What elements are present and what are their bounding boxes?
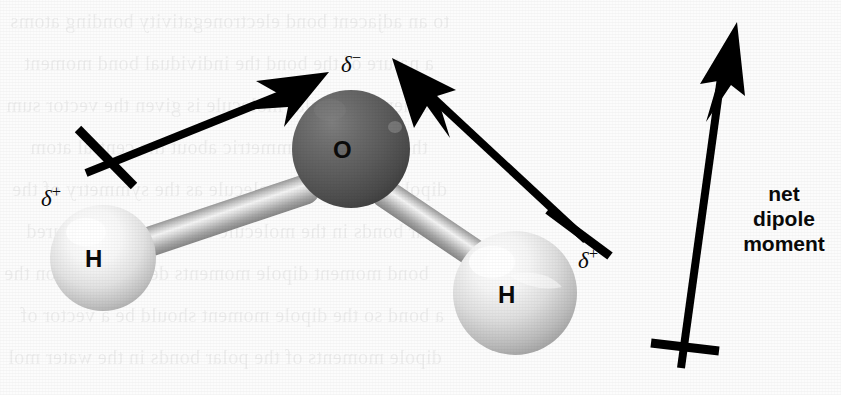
- net-dipole-line-3: moment: [732, 231, 836, 256]
- net-dipole-line-2: dipole: [732, 206, 836, 231]
- delta-positive-label-left: δ+: [41, 182, 61, 212]
- oxygen-atom-label: O: [333, 136, 352, 164]
- figure-canvas: to an adjacent bond electronegativity bo…: [0, 0, 841, 395]
- hydrogen-left-atom-label: H: [85, 245, 102, 273]
- hydrogen-right-atom-label: H: [498, 281, 515, 309]
- delta-positive-label-right: δ+: [578, 244, 598, 274]
- net-dipole-moment-label: net dipole moment: [732, 181, 836, 256]
- arrow-bond-dipole-left: [78, 72, 329, 186]
- atom-hydrogen-left: [50, 205, 156, 311]
- arrow-net-dipole: [651, 22, 745, 368]
- delta-negative-label: δ−: [341, 48, 361, 78]
- molecule-vector-layer: [0, 0, 841, 395]
- net-dipole-line-1: net: [732, 181, 836, 206]
- bond-O-Hleft: [134, 171, 324, 260]
